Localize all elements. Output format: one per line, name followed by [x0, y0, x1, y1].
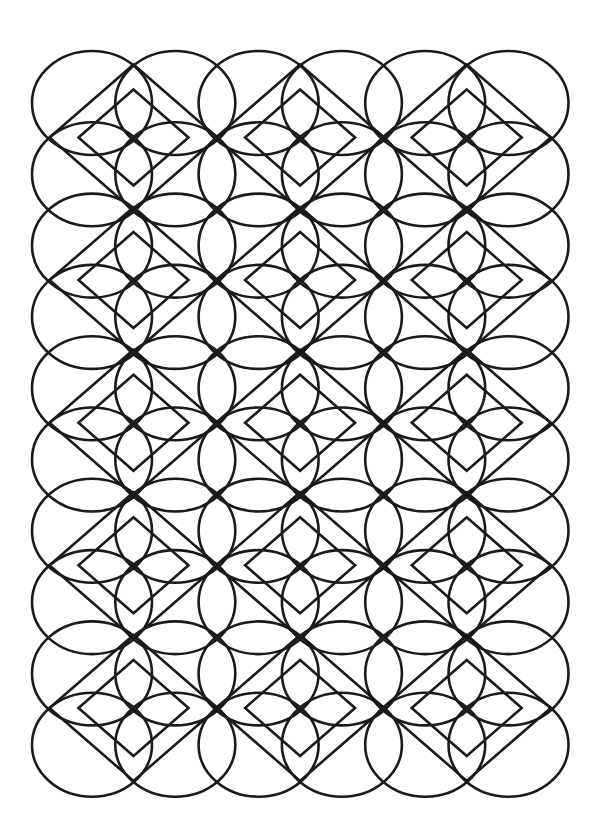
pattern-canvas	[0, 0, 604, 837]
pattern-ellipse	[449, 51, 569, 155]
ellipse-layer	[32, 51, 569, 797]
